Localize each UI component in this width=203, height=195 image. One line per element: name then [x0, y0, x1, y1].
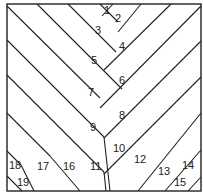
- board-number-label: 2: [115, 12, 121, 24]
- board-number-label: 5: [91, 54, 97, 66]
- board-labels: 12345678910111213141516171819: [9, 4, 194, 188]
- board-number-label: 18: [9, 159, 21, 171]
- board-number-label: 11: [90, 160, 101, 172]
- board-number-label: 8: [119, 109, 125, 121]
- board-number-label: 12: [134, 153, 146, 165]
- herringbone-diagram: 12345678910111213141516171819: [0, 0, 203, 195]
- board-edge-line: [188, 177, 201, 191]
- board-number-label: 3: [95, 24, 101, 36]
- board-number-label: 4: [119, 40, 125, 52]
- board-number-label: 15: [174, 176, 186, 188]
- board-number-label: 14: [182, 159, 194, 171]
- board-number-label: 1: [104, 4, 110, 16]
- board-edge-line: [7, 113, 50, 156]
- board-edge-line: [104, 172, 106, 191]
- board-number-label: 9: [90, 121, 96, 133]
- board-number-label: 19: [17, 176, 29, 188]
- board-number-label: 17: [37, 160, 49, 172]
- board-number-label: 13: [158, 165, 170, 177]
- board-edge-line: [138, 113, 201, 191]
- board-number-label: 10: [113, 142, 125, 154]
- board-number-label: 6: [119, 74, 125, 86]
- board-number-label: 16: [63, 160, 75, 172]
- board-edge-line: [37, 4, 122, 89]
- board-edge-line: [118, 4, 141, 32]
- board-number-label: 7: [88, 86, 94, 98]
